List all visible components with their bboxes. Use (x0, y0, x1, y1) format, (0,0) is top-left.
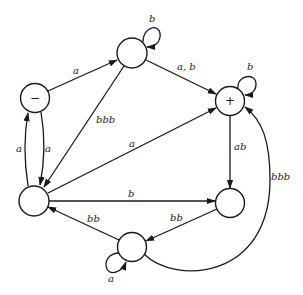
automaton-diagram: − + a b a, b bbb b a a a ab b bb bb a bb… (0, 0, 303, 295)
edge-labels: a b a, b bbb b a a a ab b bb bb a bbb (16, 13, 290, 284)
final-symbol: + (225, 94, 235, 108)
node-bottom (118, 233, 147, 262)
label-start-top: a (73, 65, 79, 76)
node-right (216, 189, 245, 218)
nodes: − + (19, 38, 245, 262)
label-left-final: a (129, 138, 135, 149)
node-top (117, 38, 147, 68)
edge-start-top (48, 60, 117, 91)
label-bottom-loop: a (108, 273, 114, 284)
label-top-loop: b (149, 13, 155, 24)
start-symbol: − (30, 91, 40, 105)
label-right-bottom: bb (170, 212, 183, 223)
edge-top-loop (143, 28, 160, 47)
label-bottom-final: bbb (271, 171, 290, 182)
label-final-right: ab (234, 141, 246, 152)
label-start-left: a (45, 143, 51, 154)
label-top-left: bbb (96, 114, 115, 125)
edge-left-final (48, 108, 216, 193)
edge-bottom-final (144, 107, 270, 271)
label-left-start: a (16, 143, 22, 154)
edge-bottom-left (48, 207, 119, 240)
label-final-loop: b (247, 61, 253, 72)
label-left-right: b (128, 188, 134, 199)
label-top-final: a, b (177, 61, 196, 72)
node-left (19, 186, 49, 216)
edge-top-left (44, 66, 124, 187)
label-bottom-left: bb (87, 213, 100, 224)
edge-left-start (25, 113, 28, 186)
edge-start-left (40, 112, 44, 185)
